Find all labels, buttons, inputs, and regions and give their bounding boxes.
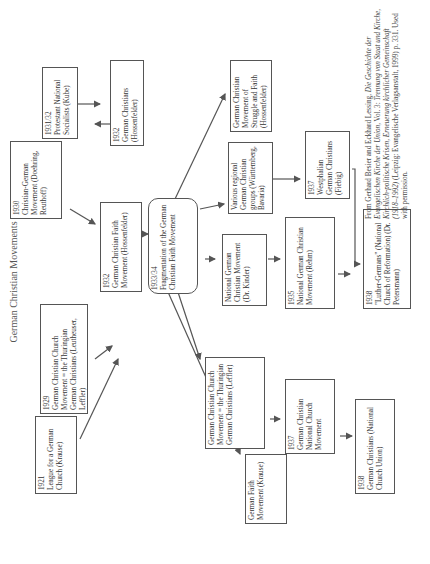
node-year: 1933/34	[151, 202, 160, 290]
node-label: Westphalian German Christians (Fiebig)	[317, 141, 343, 195]
node-year: 1930	[13, 145, 22, 215]
node-label: German Christian Church Movement = the T…	[208, 364, 234, 445]
node-year: 1932	[103, 206, 112, 288]
node-label: German Christian Movement of Struggle an…	[233, 75, 268, 128]
node-label: German Christian Church Movement = the T…	[52, 318, 87, 410]
node-label: Various regional German Christian groups…	[231, 146, 266, 210]
node-1921-league: 1921 League for a German Church (Krause)	[35, 416, 77, 494]
node-german-faith-movement: German Faith Movement (Krause)	[245, 454, 287, 524]
node-year: 1938	[358, 403, 367, 490]
node-label: National German Christian Movement (Rehm…	[297, 227, 314, 305]
node-1933-fragmentation: 1933/34 Fragmentation of the German Chri…	[148, 198, 198, 294]
node-1932-german-christians: 1932 German Christians (Hossenfelder)	[110, 60, 144, 146]
node-year: 1937	[288, 383, 297, 450]
node-regional-groups: Various regional German Christian groups…	[228, 142, 273, 214]
citation-authors: From Gerhard Besier and Eckhard Lessing,	[365, 92, 373, 219]
node-year: 1932	[113, 64, 122, 142]
node-1930-christian-german: 1930 Christian-German Movement (Doehring…	[10, 141, 62, 219]
node-label: Protestant National Socialists (Kube)	[54, 80, 71, 135]
source-citation: From Gerhard Besier and Eckhard Lessing,…	[365, 9, 410, 219]
node-year: 1921	[38, 420, 47, 490]
node-label: Fragmentation of the German Christian Fa…	[160, 205, 177, 290]
node-label: German Christians (Hossenfelder)	[122, 88, 139, 142]
node-label: German Christians (National Church Union…	[367, 407, 384, 490]
node-label: German Christian National Church Movemen…	[297, 399, 323, 450]
node-1935-national-gcm-rehm: 1935 National German Christian Movement …	[285, 217, 335, 309]
node-label: German Christian Faith Movement (Hossenf…	[112, 212, 129, 288]
citation-volume: , Vol. 3:	[374, 101, 382, 125]
node-label: Christian-German Movement (Doehring, Reu…	[22, 151, 48, 215]
node-label: League for a German Church (Krause)	[47, 429, 64, 490]
node-1938-national-church-union: 1938 German Christians (National Church …	[355, 399, 395, 494]
node-gccm-leffler: German Christian Church Movement = the T…	[205, 357, 265, 449]
node-year: 1929	[43, 308, 52, 410]
node-1932-faith-movement: 1932 German Christian Faith Movement (Ho…	[100, 202, 142, 292]
node-1929-gccm: 1929 German Christian Church Movement = …	[40, 304, 88, 414]
node-1931-protestant-ns: 1931/32 Protestant National Socialists (…	[42, 67, 78, 139]
node-national-gcm-kinder: National German Christian Movement (Dr. …	[222, 234, 267, 306]
node-year: 1935	[288, 221, 297, 305]
node-1937-national-church: 1937 German Christian National Church Mo…	[285, 379, 335, 454]
node-label: National German Christian Movement (Dr. …	[225, 243, 251, 302]
node-label: German Faith Movement (Krause)	[248, 462, 265, 520]
node-1937-westphalian: 1937 1938 Westphalian German Christians …	[305, 131, 350, 199]
diagram-canvas: German Christian Movements	[0, 0, 430, 564]
node-1938-luther-germans: 1938 "Luther-Germans" (National Church o…	[363, 209, 411, 309]
node-year: 1937	[308, 135, 317, 195]
node-label: "Luther-Germans" (National Church of Ref…	[375, 222, 401, 305]
node-year: 1938	[366, 213, 375, 305]
node-year: 1931/32	[45, 71, 54, 135]
node-struggle-and-faith: German Christian Movement of Struggle an…	[230, 60, 272, 132]
